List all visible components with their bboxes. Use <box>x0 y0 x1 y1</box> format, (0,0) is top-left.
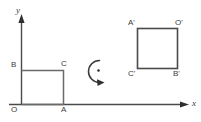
diagram-canvas <box>0 0 201 122</box>
image-square-path <box>138 29 178 69</box>
vertex-label-a-prime: A' <box>128 19 135 27</box>
vertex-label-o: O <box>11 106 17 114</box>
vertex-label-b: B <box>11 61 16 69</box>
vertex-label-c-prime: C' <box>128 70 135 78</box>
x-axis-label: x <box>192 99 196 108</box>
vertex-label-b-prime: B' <box>173 70 180 78</box>
rotation-arrowhead <box>97 79 105 86</box>
y-axis-label: y <box>16 6 20 15</box>
geometry-figure: y x O A C B A' O' B' C' <box>0 0 201 122</box>
rotation-center-dot <box>97 69 100 72</box>
vertex-label-c: C <box>61 60 67 68</box>
vertex-label-a: A <box>61 106 66 114</box>
vertex-label-o-prime: O' <box>175 19 183 27</box>
source-square-path <box>22 71 64 105</box>
y-axis-arrowhead <box>18 14 24 23</box>
x-axis-arrowhead <box>180 101 189 107</box>
